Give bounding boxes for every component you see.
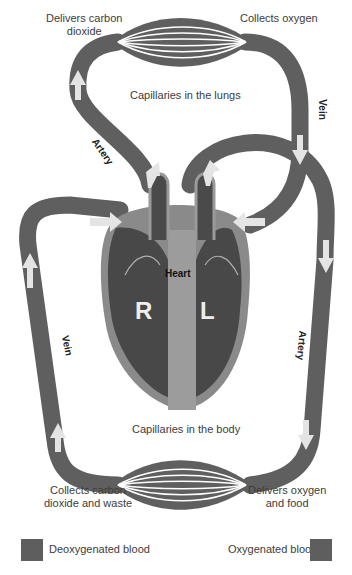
label-heart: Heart [165, 268, 191, 279]
label-left-side: L [200, 297, 215, 325]
label-vein-upper: Vein [317, 99, 328, 120]
pulmonary-artery [78, 42, 150, 185]
label-collects-co2: Collects carbon dioxide and waste [44, 484, 132, 510]
label-collects-oxygen: Collects oxygen [240, 12, 318, 25]
label-delivers-co2: Delivers carbon dioxide [46, 12, 122, 38]
legend-swatch-oxygenated [310, 539, 332, 561]
label-delivers-oxygen: Delivers oxygen and food [248, 484, 326, 510]
legend-label-deoxygenated: Deoxygenated blood [49, 543, 150, 555]
pulmonary-vein [245, 42, 300, 225]
legend-swatch-deoxygenated [21, 539, 43, 561]
label-capillaries-lungs: Capillaries in the lungs [130, 89, 241, 102]
body-capillaries [112, 460, 252, 510]
label-capillaries-body: Capillaries in the body [132, 423, 240, 436]
lung-capillaries [112, 18, 252, 67]
legend-label-oxygenated: Oxygenated blood [228, 543, 317, 555]
label-right-side: R [135, 297, 152, 325]
